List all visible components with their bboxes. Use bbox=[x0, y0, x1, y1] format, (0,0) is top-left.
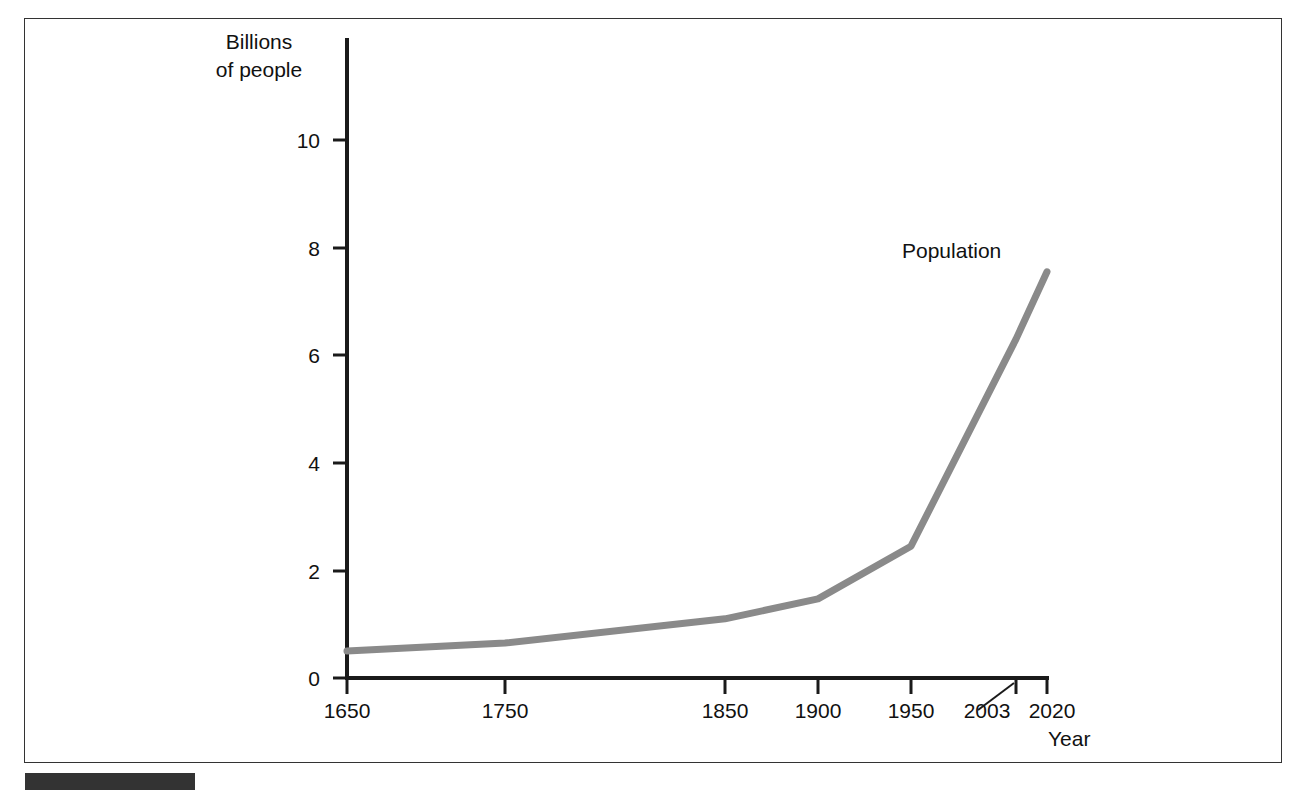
series-line-population bbox=[347, 272, 1047, 651]
chart-page: Billions of people Population Year 10 8 … bbox=[0, 0, 1302, 790]
x-tick-2003-leader-line bbox=[978, 683, 1014, 710]
chart-plot-area bbox=[0, 0, 1302, 790]
